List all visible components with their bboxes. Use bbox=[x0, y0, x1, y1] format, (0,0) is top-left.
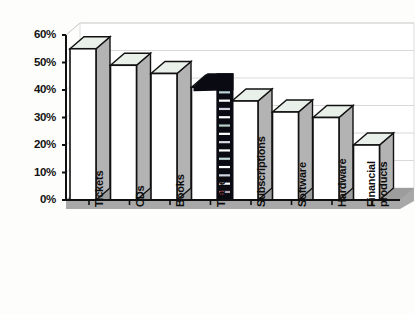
artifact-dash bbox=[219, 133, 230, 135]
x-axis-label-subscriptions: Subscriptions bbox=[255, 136, 267, 207]
artifact-dash bbox=[219, 91, 230, 93]
x-axis-label-software: Software bbox=[296, 162, 308, 207]
chart-figure: 0%10%20%30%40%50%60% TicketsCDsBooksTrav… bbox=[0, 0, 415, 315]
chart-plot-area: 0%10%20%30%40%50%60% TicketsCDsBooksTrav… bbox=[0, 0, 415, 315]
y-axis-tick-label-30: 30% bbox=[22, 112, 56, 123]
y-axis-tick-label-10: 10% bbox=[22, 167, 56, 178]
x-axis-label-tickets: Tickets bbox=[93, 171, 105, 207]
artifact-dash bbox=[219, 149, 230, 151]
bar-side-face bbox=[137, 53, 151, 200]
artifact-dash bbox=[219, 124, 230, 126]
y-axis-tick-label-20: 20% bbox=[22, 139, 56, 150]
artifact-dash bbox=[219, 158, 230, 160]
y-axis-tick-label-40: 40% bbox=[22, 84, 56, 95]
bar-front-face bbox=[111, 65, 137, 200]
bar-cds[interactable] bbox=[111, 53, 151, 200]
bar-front-face bbox=[273, 112, 299, 200]
y-axis-tick-label-0: 0% bbox=[22, 194, 56, 205]
artifact-dash bbox=[219, 100, 230, 102]
x-axis-label-books: Books bbox=[174, 174, 186, 207]
x-axis-label-travel: Travel bbox=[215, 176, 227, 207]
y-axis-depth-line bbox=[66, 23, 80, 35]
x-axis-label-cds: CDs bbox=[134, 186, 146, 207]
y-axis-tick-label-60: 60% bbox=[22, 29, 56, 40]
x-axis-label-hardware: Hardware bbox=[336, 158, 348, 207]
y-axis-tick-label-50: 50% bbox=[22, 57, 56, 68]
bar-front-face bbox=[192, 87, 218, 200]
x-axis-label-line-1: Financial bbox=[365, 161, 377, 207]
artifact-dash bbox=[219, 166, 230, 168]
artifact-dash bbox=[219, 108, 230, 110]
artifact-dash bbox=[219, 116, 230, 118]
x-axis-label-line-2: products bbox=[377, 161, 389, 207]
x-axis-label-financial-products: Financialproducts bbox=[365, 161, 389, 207]
chart-canvas bbox=[0, 0, 415, 315]
artifact-dash bbox=[219, 141, 230, 143]
